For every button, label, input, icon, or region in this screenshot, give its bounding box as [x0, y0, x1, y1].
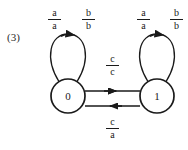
transition-label-forward-numerator: c	[104, 54, 121, 65]
self-loop-state-0	[51, 34, 86, 83]
state-label-0: 0	[59, 90, 77, 102]
loop-label-right-b: b b	[168, 8, 185, 31]
loop-label-right-a-denominator: a	[135, 20, 152, 31]
loop-label-left-a-denominator: a	[46, 20, 63, 31]
loop-label-left-a: a a	[46, 8, 63, 31]
transition-label-back-denominator: a	[104, 129, 121, 140]
automaton-figure: (3) 0 1 a	[0, 0, 188, 150]
transition-label-forward: c c	[104, 54, 121, 77]
loop-label-right-a-numerator: a	[135, 8, 152, 19]
transition-label-back: c a	[104, 117, 121, 140]
transition-label-back-numerator: c	[104, 117, 121, 128]
loop-label-left-a-numerator: a	[46, 8, 63, 19]
self-loop-state-1	[140, 34, 175, 83]
transition-label-forward-denominator: c	[104, 66, 121, 77]
state-label-1: 1	[148, 90, 166, 102]
loop-label-right-b-denominator: b	[168, 20, 185, 31]
loop-label-left-b: b b	[80, 8, 97, 31]
loop-label-right-a: a a	[135, 8, 152, 31]
loop-label-left-b-denominator: b	[80, 20, 97, 31]
loop-label-left-b-numerator: b	[80, 8, 97, 19]
loop-label-right-b-numerator: b	[168, 8, 185, 19]
